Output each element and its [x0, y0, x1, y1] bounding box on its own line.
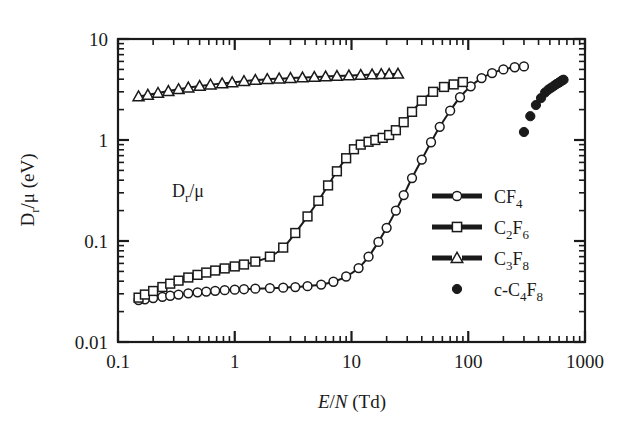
data-point [211, 266, 220, 275]
data-point [417, 155, 426, 164]
x-tick-label: 100 [454, 351, 483, 372]
data-point [399, 118, 408, 127]
data-point [251, 284, 260, 293]
data-point [342, 154, 351, 163]
data-point [417, 96, 426, 105]
data-point [446, 106, 455, 115]
data-point [449, 80, 458, 89]
data-point [435, 122, 444, 131]
x-tick-label: 0.1 [106, 351, 130, 372]
data-point [193, 270, 202, 279]
data-point [291, 229, 300, 238]
data-point [220, 264, 229, 273]
data-point [488, 69, 497, 78]
data-point [141, 290, 150, 299]
data-point [174, 290, 183, 299]
y-tick-label: 1 [99, 130, 109, 151]
data-point [333, 167, 342, 176]
legend-marker [452, 222, 461, 231]
data-point [382, 223, 391, 232]
data-point [265, 252, 274, 261]
data-point [408, 174, 417, 183]
data-point [240, 260, 249, 269]
data-point [526, 112, 535, 121]
legend-marker [452, 284, 461, 293]
data-point [399, 191, 408, 200]
data-point [314, 196, 323, 205]
data-point [342, 272, 351, 281]
data-point [456, 93, 465, 102]
data-point [391, 206, 400, 215]
data-point [291, 283, 300, 292]
x-tick-label: 1000 [566, 351, 604, 372]
data-point [329, 277, 338, 286]
data-point [230, 262, 239, 271]
data-point [184, 273, 193, 282]
y-tick-label: 0.1 [84, 231, 108, 252]
data-point [440, 83, 449, 92]
data-point [303, 212, 312, 221]
data-point [240, 285, 249, 294]
data-point [149, 287, 158, 296]
data-point [174, 276, 183, 285]
data-point [211, 286, 220, 295]
figure-root: 0.11101001000 0.010.1110 CF4C2F6C3F8c-C4… [0, 0, 637, 426]
data-point [220, 286, 229, 295]
data-point [184, 289, 193, 298]
data-point [202, 268, 211, 277]
data-point [265, 284, 274, 293]
data-point [459, 78, 468, 87]
data-point [510, 63, 519, 72]
data-point [427, 138, 436, 147]
data-point [166, 291, 175, 300]
data-point [374, 237, 383, 246]
data-point [499, 65, 508, 74]
data-point [251, 257, 260, 266]
x-tick-label: 10 [342, 351, 361, 372]
data-point [354, 264, 363, 273]
y-tick-label: 0.01 [75, 332, 108, 353]
data-point [193, 288, 202, 297]
data-point [202, 287, 211, 296]
data-point [279, 243, 288, 252]
data-point [408, 107, 417, 116]
data-point [429, 87, 438, 96]
data-point [166, 279, 175, 288]
y-tick-label: 10 [89, 29, 108, 50]
legend-marker [452, 191, 461, 200]
data-point [324, 181, 333, 190]
data-point [477, 74, 486, 83]
data-point [559, 75, 568, 84]
data-point [279, 283, 288, 292]
chart-canvas: 0.11101001000 0.010.1110 CF4C2F6C3F8c-C4… [0, 0, 637, 426]
data-point [303, 282, 312, 291]
x-axis-title: E/N (Td) [317, 391, 386, 413]
data-point [317, 280, 326, 289]
data-point [364, 252, 373, 261]
data-point [520, 62, 529, 71]
x-tick-label: 1 [230, 351, 240, 372]
data-point [519, 127, 528, 136]
data-point [230, 285, 239, 294]
figure-background [0, 0, 637, 426]
